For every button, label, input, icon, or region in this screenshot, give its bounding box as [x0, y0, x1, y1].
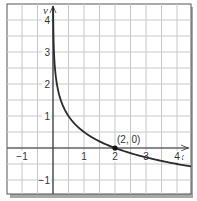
- x-tick-label: 1: [81, 151, 87, 162]
- x-tick-label: −1: [16, 151, 28, 162]
- y-tick-label: −1: [39, 175, 51, 186]
- x-tick-label: 2: [112, 151, 118, 162]
- y-tick-label: 2: [44, 79, 50, 90]
- point-marker: [112, 145, 117, 150]
- y-tick-label: 4: [44, 15, 50, 26]
- y-tick-label: 1: [44, 111, 50, 122]
- graph-chart: xy −112344321−1 (2, 0): [0, 0, 197, 201]
- y-tick-label: 3: [44, 47, 50, 58]
- x-tick-label: 4: [174, 151, 180, 162]
- point-label: (2, 0): [117, 134, 140, 145]
